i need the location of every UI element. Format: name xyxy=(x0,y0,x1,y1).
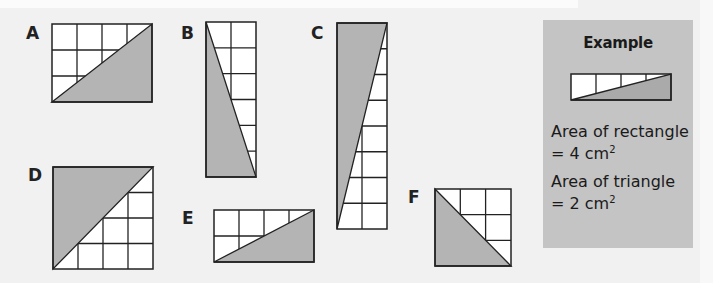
right-strip xyxy=(700,0,713,283)
shape-d-grid xyxy=(53,167,153,269)
top-strip xyxy=(0,0,578,8)
rect-area-value: = 4 cm2 xyxy=(551,143,616,164)
rect-area-label: Area of rectangle xyxy=(551,121,689,142)
shape-a-label: A xyxy=(26,23,39,43)
shape-c-grid xyxy=(337,23,387,229)
shape-f-grid xyxy=(435,189,511,266)
shape-c-label: C xyxy=(311,23,323,43)
tri-area-value: = 2 cm2 xyxy=(551,193,616,214)
shape-d-label: D xyxy=(28,165,42,185)
shape-e-grid xyxy=(214,210,314,262)
shape-b-grid xyxy=(206,22,256,177)
shape-e-label: E xyxy=(182,208,194,228)
example-panel: Example Area of rectangle = 4 cm2 Area o… xyxy=(543,20,693,248)
tri-area-label: Area of triangle xyxy=(551,171,675,192)
shape-f-label: F xyxy=(408,187,420,207)
example-title: Example xyxy=(543,34,693,52)
example-shape xyxy=(571,74,671,100)
shape-a-grid xyxy=(52,24,152,102)
shape-b-label: B xyxy=(181,23,194,43)
